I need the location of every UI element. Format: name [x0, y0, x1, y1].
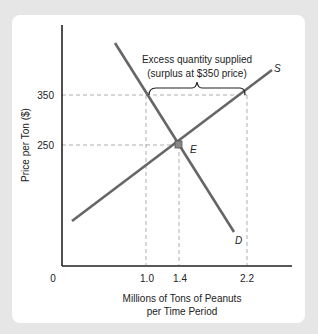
y-tick-250: 250: [37, 140, 54, 151]
supply-curve: [72, 70, 272, 221]
annotation-line2: (surplus at $350 price): [147, 68, 247, 79]
x-axis-label-line2: per Time Period: [147, 306, 218, 317]
supply-demand-chart: Excess quantity supplied (surplus at $35…: [0, 0, 318, 334]
y-tick-350: 350: [37, 90, 54, 101]
supply-label: S: [274, 63, 281, 74]
equilibrium-point: [175, 141, 182, 148]
x-tick-2-2: 2.2: [240, 273, 254, 284]
x-tick-1-0: 1.0: [140, 273, 154, 284]
x-tick-0: 0: [50, 273, 56, 284]
surplus-bracket: [149, 82, 245, 95]
demand-label: D: [235, 235, 242, 246]
equilibrium-label: E: [190, 144, 197, 155]
x-tick-1-4: 1.4: [173, 273, 187, 284]
x-axis-label-line1: Millions of Tons of Peanuts: [123, 293, 242, 304]
annotation-line1: Excess quantity supplied: [142, 54, 252, 65]
reference-lines: [62, 95, 247, 265]
y-axis-label: Price per Ton ($): [20, 108, 31, 182]
